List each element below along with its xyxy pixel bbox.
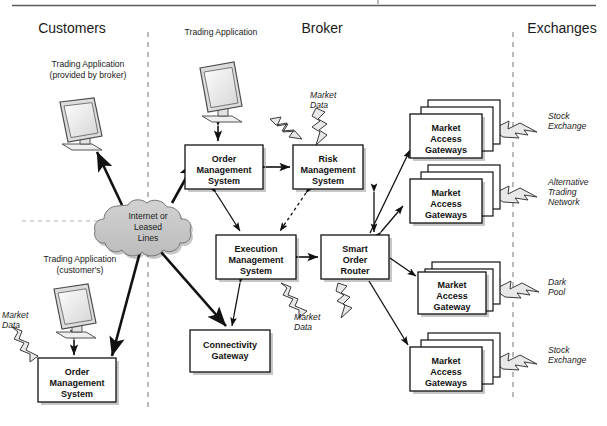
venue-atn-line3: Network bbox=[548, 197, 580, 207]
execution-management-system[interactable]: Execution Management System bbox=[216, 235, 299, 282]
mag-bottom-label-line2: Access bbox=[430, 367, 462, 377]
rms-label-line2: Management bbox=[300, 165, 355, 175]
mag-darkpool-label-line2: Access bbox=[436, 291, 468, 301]
sor-label-line3: Router bbox=[341, 266, 370, 276]
rms-label-line3: System bbox=[312, 176, 344, 186]
sor-label-line2: Order bbox=[343, 255, 368, 265]
broker-terminal: Trading Application bbox=[185, 27, 258, 122]
market-access-gateways-stock-exchange-top[interactable]: Market Access Gateways bbox=[410, 100, 500, 161]
venue-stock-exchange-top-line1: Stock bbox=[548, 111, 570, 121]
customer-terminal-caption-line1: Trading Application bbox=[52, 59, 125, 69]
column-header-broker: Broker bbox=[301, 20, 343, 36]
market-data-broker-top-line2: Data bbox=[310, 100, 328, 110]
broker-oms-label-line3: System bbox=[208, 176, 240, 186]
column-header-customers: Customers bbox=[38, 20, 106, 36]
customer-oms-label-line1: Order bbox=[65, 367, 90, 377]
market-data-ems-sor-line1: Market bbox=[294, 312, 321, 322]
customer-broker-provided-terminal: Trading Application (provided by broker) bbox=[50, 59, 127, 150]
edge-oms-to-ems bbox=[216, 193, 240, 231]
lightning-bolt-market-data-broker-inbound bbox=[270, 117, 302, 139]
ems-label-line2: Management bbox=[228, 255, 283, 265]
cloud-label-line3: Lines bbox=[138, 233, 159, 243]
customer-own-terminal-caption-line1: Trading Application bbox=[44, 254, 117, 264]
ems-label-line3: System bbox=[240, 266, 272, 276]
column-header-exchanges: Exchanges bbox=[527, 20, 596, 36]
venue-labels: Stock Exchange Alternative Trading Netwo… bbox=[547, 111, 589, 365]
mag-top-label-line1: Market bbox=[431, 123, 460, 133]
broker-oms-label-line1: Order bbox=[212, 154, 237, 164]
venue-stock-exchange-bottom-line1: Stock bbox=[548, 345, 570, 355]
customer-own-terminal: Trading Application (customer's) bbox=[44, 254, 117, 338]
cloud-label-line2: Leased bbox=[134, 222, 162, 232]
smart-order-router[interactable]: Smart Order Router bbox=[321, 235, 392, 282]
market-access-gateway-dark-pool[interactable]: Market Access Gateway bbox=[418, 262, 500, 317]
mag-bottom-label-line3: Gateways bbox=[425, 378, 467, 388]
rms-label-line1: Risk bbox=[318, 154, 338, 164]
market-data-broker-top-line1: Market bbox=[310, 90, 337, 100]
broker-terminal-caption: Trading Application bbox=[185, 27, 258, 37]
mag-top-label-line3: Gateways bbox=[425, 145, 467, 155]
customer-oms[interactable]: Order Management System bbox=[38, 358, 119, 405]
edge-cloud-to-customer-oms bbox=[112, 252, 140, 356]
venue-atn-line1: Alternative bbox=[547, 177, 589, 187]
venue-stock-exchange-bottom-line2: Exchange bbox=[548, 355, 586, 365]
lightning-bolt-market-data-sor bbox=[336, 283, 352, 318]
edge-sor-to-mag-bottom bbox=[369, 281, 408, 345]
lightning-bolt-market-data-rms bbox=[312, 108, 327, 145]
cloud-label-line1: Internet or bbox=[128, 211, 167, 221]
edge-ems-to-connectivity-gateway bbox=[232, 283, 240, 326]
customer-terminal-caption-line2: (provided by broker) bbox=[50, 70, 127, 80]
venue-atn-line2: Trading bbox=[548, 187, 577, 197]
mag-atn-label-line1: Market bbox=[431, 188, 460, 198]
mag-darkpool-label-line1: Market bbox=[437, 280, 466, 290]
venue-dark-pool-line1: Dark bbox=[548, 277, 567, 287]
broker-oms[interactable]: Order Management System bbox=[185, 145, 266, 192]
mag-atn-label-line2: Access bbox=[430, 199, 462, 209]
mag-top-label-line2: Access bbox=[430, 134, 462, 144]
connectivity-gateway-label-line1: Connectivity bbox=[203, 340, 257, 350]
mag-darkpool-label-line3: Gateway bbox=[433, 302, 470, 312]
market-access-gateways-stock-exchange-bottom[interactable]: Market Access Gateways bbox=[410, 333, 500, 394]
broker-oms-label-line2: Management bbox=[196, 165, 251, 175]
sor-label-line1: Smart bbox=[342, 244, 368, 254]
network-cloud: Internet or Leased Lines bbox=[94, 200, 192, 259]
edge-sor-to-mag-darkpool bbox=[390, 258, 416, 276]
market-data-customer-line2: Data bbox=[2, 320, 20, 330]
venue-dark-pool-line2: Pool bbox=[548, 287, 566, 297]
mag-bottom-label-line1: Market bbox=[431, 356, 460, 366]
edge-rms-to-ems-dotted bbox=[280, 193, 306, 231]
customer-own-terminal-caption-line2: (customer's) bbox=[56, 265, 103, 275]
mag-atn-label-line3: Gateways bbox=[425, 210, 467, 220]
venue-stock-exchange-top-line2: Exchange bbox=[548, 121, 586, 131]
lightning-bolt-market-data-customer bbox=[12, 327, 38, 362]
market-data-ems-sor-line2: Data bbox=[294, 322, 312, 332]
customer-oms-label-line3: System bbox=[61, 389, 93, 399]
market-access-gateways-alternative-trading-network[interactable]: Market Access Gateways bbox=[410, 165, 500, 226]
network-architecture-diagram: Customers Broker Exchanges bbox=[0, 0, 607, 426]
market-data-customer-line1: Market bbox=[2, 310, 29, 320]
top-rule bbox=[12, 0, 596, 6]
edge-cloud-to-customer-terminal bbox=[97, 152, 122, 205]
connectivity-gateway-label-line2: Gateway bbox=[211, 351, 248, 361]
ems-label-line1: Execution bbox=[234, 244, 277, 254]
customer-oms-label-line2: Management bbox=[49, 378, 104, 388]
edge-sor-to-mag-atn bbox=[381, 206, 403, 232]
risk-management-system[interactable]: Risk Management System bbox=[293, 145, 366, 192]
connectivity-gateway[interactable]: Connectivity Gateway bbox=[190, 330, 273, 375]
